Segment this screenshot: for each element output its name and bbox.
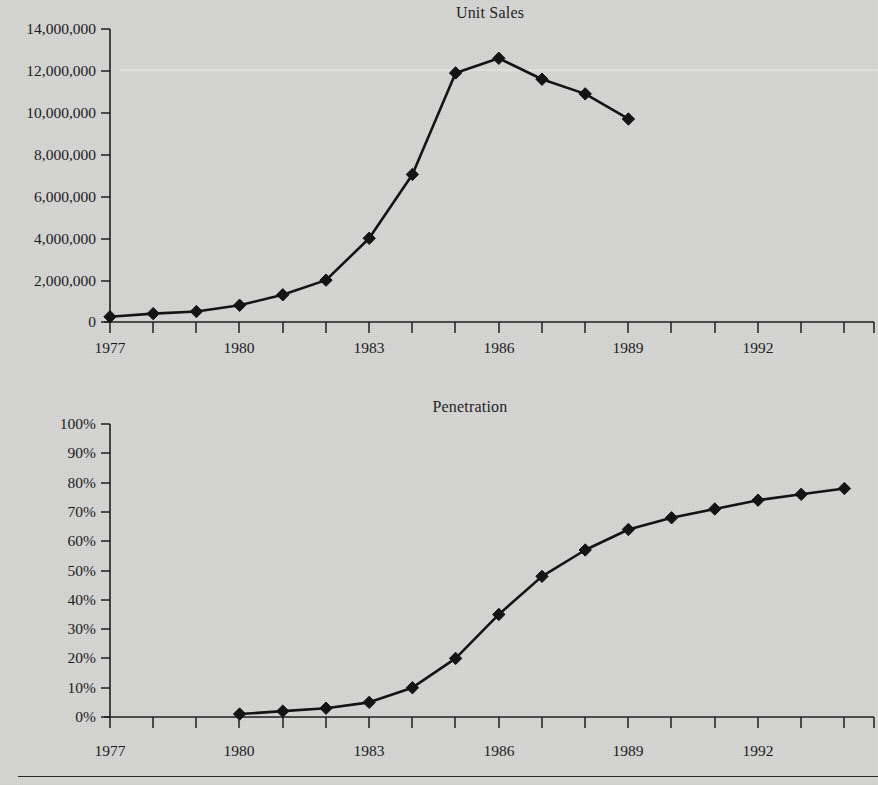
data-point-marker <box>277 705 289 717</box>
data-point-marker <box>536 73 548 85</box>
penetration-ytick-label: 90% <box>0 445 96 461</box>
unit-sales-xtick-label: 1992 <box>713 340 803 356</box>
unit-sales-plot <box>0 0 878 372</box>
data-point-marker <box>665 512 677 524</box>
penetration-xtick-label: 1980 <box>194 743 284 759</box>
penetration-xtick-label: 1977 <box>65 743 155 759</box>
unit-sales-y-ticks <box>101 29 110 322</box>
penetration-plot <box>0 392 878 752</box>
unit-sales-xtick-label: 1980 <box>194 340 284 356</box>
penetration-svg <box>0 392 878 752</box>
unit-sales-x-ticks <box>110 322 874 333</box>
data-point-marker <box>493 52 505 64</box>
unit-sales-ytick-label: 4,000,000 <box>0 231 96 247</box>
unit-sales-ytick-label: 8,000,000 <box>0 147 96 163</box>
data-point-marker <box>449 67 461 79</box>
unit-sales-xtick-label: 1986 <box>454 340 544 356</box>
data-point-marker <box>363 696 375 708</box>
penetration-xtick-label: 1986 <box>454 743 544 759</box>
data-point-marker <box>795 488 807 500</box>
unit-sales-xtick-label: 1989 <box>583 340 673 356</box>
data-point-marker <box>838 482 850 494</box>
penetration-ytick-label: 40% <box>0 592 96 608</box>
penetration-y-ticks <box>101 424 110 717</box>
penetration-ytick-label: 80% <box>0 475 96 491</box>
penetration-ytick-label: 70% <box>0 504 96 520</box>
series-line <box>110 58 628 316</box>
data-point-marker <box>709 503 721 515</box>
unit-sales-ytick-label: 14,000,000 <box>0 21 96 37</box>
unit-sales-series <box>104 52 635 323</box>
penetration-ytick-label: 30% <box>0 621 96 637</box>
unit-sales-ytick-label: 2,000,000 <box>0 273 96 289</box>
penetration-series <box>233 482 850 720</box>
unit-sales-svg <box>0 0 878 372</box>
data-point-marker <box>320 702 332 714</box>
data-point-marker <box>579 88 591 100</box>
data-point-marker <box>147 307 159 319</box>
data-point-marker <box>190 305 202 317</box>
penetration-ytick-label: 20% <box>0 650 96 666</box>
unit-sales-ytick-label: 6,000,000 <box>0 189 96 205</box>
penetration-x-ticks <box>110 717 874 728</box>
data-point-marker <box>104 311 116 323</box>
page-bottom-rule <box>18 776 878 777</box>
penetration-ytick-label: 10% <box>0 680 96 696</box>
unit-sales-ytick-label: 0 <box>0 314 96 330</box>
data-point-marker <box>622 523 634 535</box>
penetration-ytick-label: 0% <box>0 709 96 725</box>
data-point-marker <box>622 113 634 125</box>
series-line <box>240 488 845 714</box>
penetration-xtick-label: 1992 <box>713 743 803 759</box>
penetration-ytick-label: 50% <box>0 563 96 579</box>
unit-sales-ytick-label: 10,000,000 <box>0 105 96 121</box>
data-point-marker <box>277 289 289 301</box>
penetration-ytick-label: 100% <box>0 416 96 432</box>
data-point-marker <box>233 708 245 720</box>
data-point-marker <box>752 494 764 506</box>
unit-sales-xtick-label: 1983 <box>324 340 414 356</box>
unit-sales-ytick-label: 12,000,000 <box>0 63 96 79</box>
unit-sales-xtick-label: 1977 <box>65 340 155 356</box>
data-point-marker <box>233 299 245 311</box>
penetration-xtick-label: 1983 <box>324 743 414 759</box>
data-point-marker <box>579 544 591 556</box>
penetration-ytick-label: 60% <box>0 533 96 549</box>
penetration-xtick-label: 1989 <box>583 743 673 759</box>
